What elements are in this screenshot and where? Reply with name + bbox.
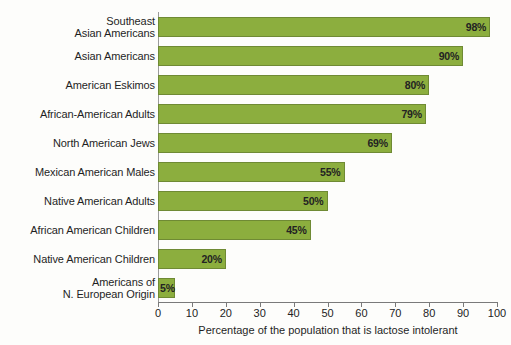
- bar: 69%: [158, 133, 392, 153]
- category-label: African American Children: [30, 223, 155, 236]
- chart-row: African-American Adults 79%: [158, 99, 497, 128]
- chart-row: African American Children 45%: [158, 215, 497, 244]
- bar: 79%: [158, 104, 426, 124]
- bar: 50%: [158, 191, 328, 211]
- chart-row: Native American Children 20%: [158, 244, 497, 273]
- x-axis-tick-label: 80: [423, 307, 435, 319]
- category-label: Southeast Asian Americans: [75, 14, 155, 39]
- x-axis-tick-label: 40: [287, 307, 299, 319]
- chart-row: Southeast Asian Americans 98%: [158, 12, 497, 41]
- bar-value-label: 69%: [367, 137, 387, 149]
- bar: 80%: [158, 75, 429, 95]
- bar-value-label: 90%: [439, 50, 459, 62]
- category-label: Mexican American Males: [35, 165, 155, 178]
- x-axis-tick-label: 0: [155, 307, 161, 319]
- bar: 45%: [158, 220, 311, 240]
- category-label: Native American Adults: [44, 194, 155, 207]
- x-axis-tick-label: 30: [254, 307, 266, 319]
- chart-row: Native American Adults 50%: [158, 186, 497, 215]
- chart-row: American Eskimos 80%: [158, 70, 497, 99]
- x-axis-tick-label: 50: [321, 307, 333, 319]
- bar-value-label: 80%: [405, 79, 425, 91]
- bar-chart: Southeast Asian Americans 98% Asian Amer…: [0, 0, 511, 345]
- x-axis-tick-label: 60: [355, 307, 367, 319]
- x-axis-tick-label: 70: [389, 307, 401, 319]
- bar: 98%: [158, 17, 490, 37]
- bar-value-label: 50%: [303, 195, 323, 207]
- chart-row: North American Jews 69%: [158, 128, 497, 157]
- category-label: Americans of N. European Origin: [63, 275, 155, 300]
- bar-value-label: 55%: [320, 166, 340, 178]
- bar-value-label: 79%: [401, 108, 421, 120]
- bar-value-label: 45%: [286, 224, 306, 236]
- chart-row: Asian Americans 90%: [158, 41, 497, 70]
- x-axis-tick-label: 100: [488, 307, 506, 319]
- x-axis-tick-label: 90: [457, 307, 469, 319]
- chart-row: Mexican American Males 55%: [158, 157, 497, 186]
- bar-value-label: 5%: [160, 282, 175, 294]
- category-label: North American Jews: [53, 136, 155, 149]
- bar-value-label: 98%: [466, 21, 486, 33]
- bar: 20%: [158, 249, 226, 269]
- x-axis-tick-label: 10: [186, 307, 198, 319]
- category-label: Asian Americans: [75, 49, 155, 62]
- plot-area: Southeast Asian Americans 98% Asian Amer…: [158, 12, 497, 302]
- x-axis-title: Percentage of the population that is lac…: [158, 324, 498, 336]
- category-label: Native American Children: [33, 252, 155, 265]
- bar-value-label: 20%: [201, 253, 221, 265]
- x-axis-tick-label: 20: [220, 307, 232, 319]
- bar: 55%: [158, 162, 345, 182]
- bar: 90%: [158, 46, 463, 66]
- bar: 5%: [158, 278, 175, 298]
- chart-row: Americans of N. European Origin 5%: [158, 273, 497, 302]
- category-label: African-American Adults: [40, 107, 155, 120]
- category-label: American Eskimos: [66, 78, 155, 91]
